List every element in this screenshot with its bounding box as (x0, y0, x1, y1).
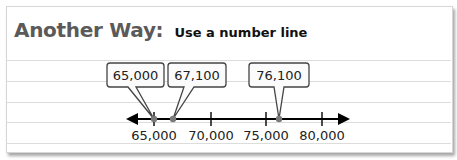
callout-65000: 65,000 (107, 63, 164, 119)
callout-label: 67,100 (174, 68, 220, 83)
number-line (126, 112, 350, 126)
number-line-diagram: 65,000 67,100 76,100 65,000 70,000 75,00… (0, 0, 457, 160)
point-76100 (276, 116, 282, 122)
callout-67100: 67,100 (168, 63, 226, 119)
callout-label: 76,100 (256, 68, 302, 83)
tick-label: 70,000 (188, 128, 234, 143)
point-67100 (170, 116, 176, 122)
right-arrow-icon (338, 113, 350, 125)
callout-label: 65,000 (113, 68, 159, 83)
tick-label: 75,000 (243, 128, 289, 143)
left-arrow-icon (126, 113, 138, 125)
tick-label: 80,000 (299, 128, 345, 143)
point-65000 (151, 116, 157, 122)
callout-76100: 76,100 (249, 63, 309, 119)
tick-label: 65,000 (131, 128, 177, 143)
